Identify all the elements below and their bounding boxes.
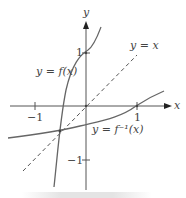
function-inverse-diagram: y x −1 1 1 −1 y = f(x) y = x y = f⁻¹(x) bbox=[0, 0, 186, 198]
point-1-0 bbox=[136, 105, 138, 107]
tick-label-x-neg1: −1 bbox=[27, 112, 43, 123]
tick-label-y-pos1: 1 bbox=[76, 47, 83, 58]
identity-line-label: y = x bbox=[130, 40, 159, 51]
origin-point bbox=[85, 105, 87, 107]
tick-label-x-pos1: 1 bbox=[134, 112, 141, 123]
point-0-1 bbox=[85, 52, 87, 54]
intersection-point bbox=[59, 130, 62, 133]
y-axis-label: y bbox=[83, 7, 89, 18]
x-axis-arrow-icon bbox=[164, 103, 172, 109]
curve-f-label: y = f(x) bbox=[36, 66, 77, 77]
x-axis-label: x bbox=[174, 100, 180, 111]
plot-canvas bbox=[0, 0, 186, 198]
y-axis-arrow-icon bbox=[83, 21, 89, 29]
curve-f-inverse-label: y = f⁻¹(x) bbox=[92, 124, 144, 135]
bottom-shadow-bar bbox=[22, 192, 152, 198]
tick-label-y-neg1: −1 bbox=[67, 155, 83, 166]
